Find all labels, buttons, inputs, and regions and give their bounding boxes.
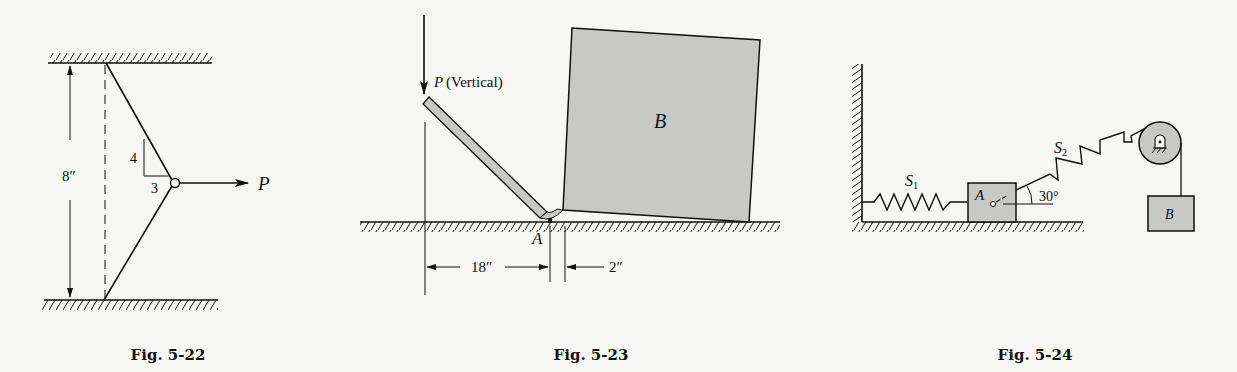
lower-member <box>104 186 172 300</box>
spring-s1 <box>862 194 967 210</box>
bottom-support <box>42 300 218 310</box>
pivot-a <box>548 218 552 223</box>
slope-run-label: 3 <box>151 181 158 196</box>
dim-label-2: 2″ <box>609 259 623 275</box>
figure-5-24: S1 A 30° S2 B Fig. 5-24 <box>852 64 1194 364</box>
slope-rise-label: 4 <box>130 151 137 166</box>
figure-5-23: P (Vertical) B A 18″ 2″ Fig. 5-23 <box>360 15 780 364</box>
figures-canvas: P 4 3 8″ Fig. 5-22 P (Vertical) B A <box>0 0 1237 372</box>
spring-s1-label: S1 <box>905 172 918 191</box>
figure-caption: Fig. 5-24 <box>998 346 1073 364</box>
top-support <box>48 53 212 63</box>
block-a-pin <box>990 201 995 206</box>
spring-s2 <box>1016 124 1156 190</box>
wall <box>852 64 862 222</box>
ground <box>360 222 780 232</box>
force-label: P <box>257 173 270 194</box>
upper-member <box>106 63 172 180</box>
lever-rod <box>423 97 547 218</box>
spring-s2-label: S2 <box>1054 139 1067 158</box>
angle-label: 30° <box>1039 189 1059 204</box>
force-note: (Vertical) <box>446 74 503 91</box>
block-b-label: B <box>1165 207 1174 222</box>
block-b-label: B <box>654 110 666 132</box>
figure-5-22: P 4 3 8″ Fig. 5-22 <box>42 53 270 364</box>
figure-caption: Fig. 5-22 <box>131 346 206 364</box>
figure-caption: Fig. 5-23 <box>554 346 629 364</box>
block-a-label: A <box>974 187 985 203</box>
pivot-a-label: A <box>531 229 543 248</box>
dim-label-18: 18″ <box>471 259 492 275</box>
pulley-axle <box>1159 141 1162 144</box>
angle-arc <box>1027 186 1032 204</box>
floor <box>852 222 1084 232</box>
dimension-label: 8″ <box>62 168 76 184</box>
force-label: P <box>433 74 443 90</box>
pin-joint <box>171 179 180 188</box>
